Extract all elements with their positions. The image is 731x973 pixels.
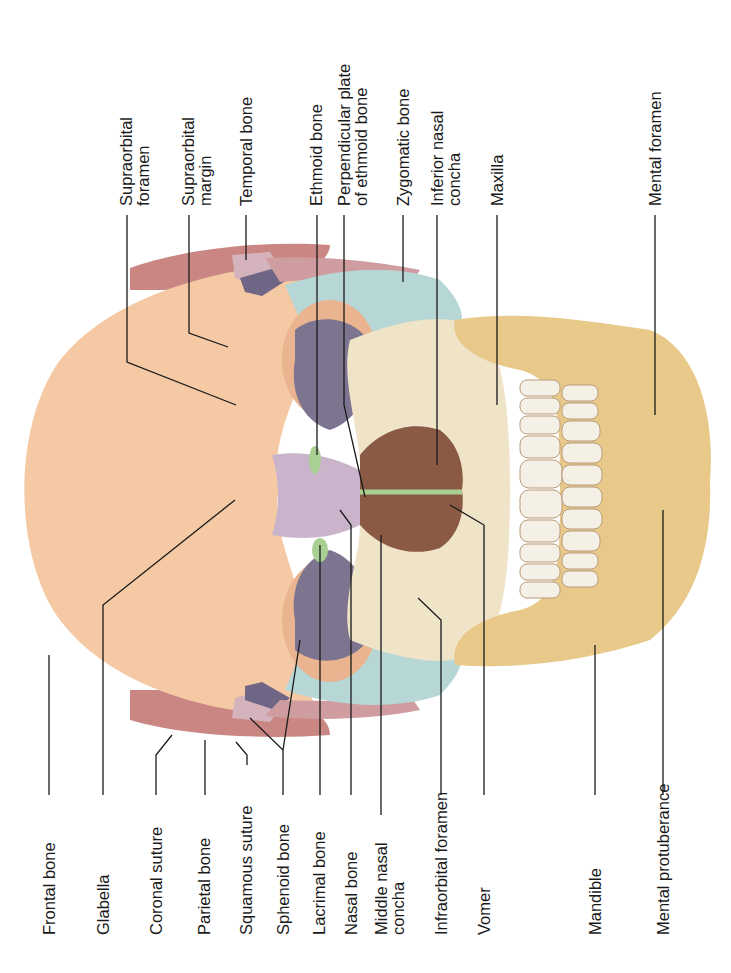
label-inferior-nasal-concha: Inferior nasal concha	[429, 111, 463, 206]
skull-anterior-diagram: Frontal bone Glabella Coronal suture Par…	[0, 0, 731, 973]
label-ethmoid-bone: Ethmoid bone	[308, 104, 325, 206]
nasal-cavity	[360, 426, 463, 552]
label-middle-nasal-concha: Middle nasal concha	[373, 842, 407, 935]
label-infraorbital-foramen: Infraorbital foramen	[433, 792, 450, 935]
label-frontal-bone: Frontal bone	[41, 842, 58, 935]
label-zygomatic-bone: Zygomatic bone	[395, 89, 412, 206]
label-mandible: Mandible	[587, 868, 604, 935]
label-perpendicular-plate: Perpendicular plate of ethmoid bone	[336, 64, 370, 206]
label-coronal-suture: Coronal suture	[148, 827, 165, 935]
label-supraorbital-foramen: Supraorbital foramen	[118, 117, 152, 206]
label-supraorbital-margin: Supraorbital margin	[180, 117, 214, 206]
label-glabella: Glabella	[95, 874, 112, 935]
label-maxilla: Maxilla	[489, 155, 506, 206]
label-squamous-suture: Squamous suture	[238, 806, 255, 935]
label-lacrimal-bone: Lacrimal bone	[311, 831, 328, 935]
ethmoid-bone-upper	[309, 446, 321, 474]
label-temporal-bone: Temporal bone	[238, 97, 255, 206]
label-mental-foramen: Mental foramen	[647, 91, 664, 206]
label-parietal-bone: Parietal bone	[196, 838, 213, 935]
label-sphenoid-bone: Sphenoid bone	[275, 824, 292, 935]
label-vomer: Vomer	[476, 887, 493, 935]
label-mental-protuberance: Mental protuberance	[655, 784, 672, 935]
label-nasal-bone: Nasal bone	[343, 852, 360, 935]
